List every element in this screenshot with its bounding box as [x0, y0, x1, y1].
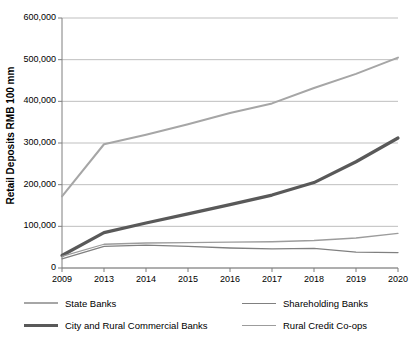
legend-label-shareholding-banks: Shareholding Banks [283, 298, 368, 309]
chart-legend: State Banks Shareholding Banks City and … [24, 292, 398, 338]
series-line-state-banks [62, 58, 398, 197]
y-tick-label: 0 [8, 262, 56, 272]
legend-swatch-city-rural-commercial-banks [24, 324, 58, 327]
y-tick-label: 400,000 [8, 95, 56, 105]
legend-row-1: State Banks Shareholding Banks [24, 292, 398, 314]
legend-label-state-banks: State Banks [65, 298, 116, 309]
x-tick-label: 2016 [210, 274, 250, 284]
x-tick-label: 2009 [42, 274, 82, 284]
chart-container: Retail Deposits RMB 100 mm State Banks S… [0, 0, 410, 347]
y-tick-label: 200,000 [8, 179, 56, 189]
y-tick-label: 300,000 [8, 137, 56, 147]
series-line-shareholding-banks [62, 245, 398, 259]
y-tick-label: 600,000 [8, 12, 56, 22]
series-line-rural-credit-co-ops [62, 233, 398, 256]
legend-item-shareholding-banks: Shareholding Banks [242, 292, 398, 314]
legend-item-state-banks: State Banks [24, 292, 242, 314]
x-tick-label: 2014 [126, 274, 166, 284]
legend-row-2: City and Rural Commercial Banks Rural Cr… [24, 314, 398, 336]
x-tick-label: 2018 [294, 274, 334, 284]
x-tick-label: 2017 [252, 274, 292, 284]
legend-item-rural-credit-coops: Rural Credit Co-ops [242, 314, 398, 336]
x-tick-label: 2020 [378, 274, 410, 284]
legend-label-city-rural-commercial-banks: City and Rural Commercial Banks [65, 320, 208, 331]
legend-swatch-state-banks [24, 302, 58, 304]
legend-swatch-shareholding-banks [242, 303, 276, 304]
y-tick-label: 500,000 [8, 54, 56, 64]
x-tick-label: 2019 [336, 274, 376, 284]
y-tick-label: 100,000 [8, 220, 56, 230]
x-tick-label: 2015 [168, 274, 208, 284]
x-tick-label: 2013 [84, 274, 124, 284]
legend-item-city-rural-commercial-banks: City and Rural Commercial Banks [24, 314, 242, 336]
legend-label-rural-credit-coops: Rural Credit Co-ops [283, 320, 367, 331]
legend-swatch-rural-credit-coops [242, 325, 276, 326]
